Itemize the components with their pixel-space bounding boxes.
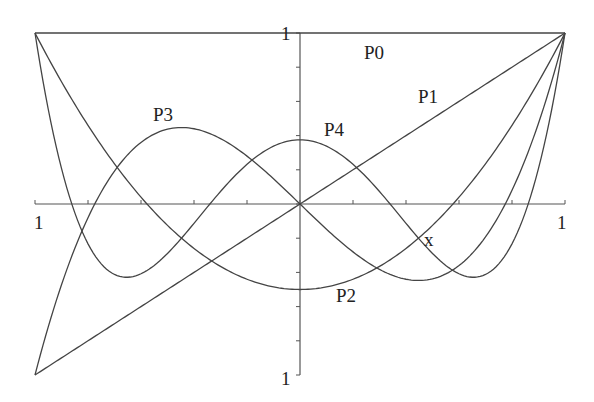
label-p3: P3: [153, 104, 173, 125]
legendre-chart: 1 1 1 1 x P0 P1 P2 P3 P4: [0, 0, 594, 402]
y-tick-label-bottom: 1: [281, 368, 291, 389]
x-tick-label-left: 1: [34, 212, 44, 233]
x-tick-label-right: 1: [557, 212, 567, 233]
label-p4: P4: [324, 119, 345, 140]
y-tick-label-top: 1: [281, 23, 291, 44]
label-p0: P0: [364, 42, 384, 63]
label-p2: P2: [336, 285, 356, 306]
x-axis-label: x: [424, 229, 434, 250]
label-p1: P1: [418, 86, 438, 107]
